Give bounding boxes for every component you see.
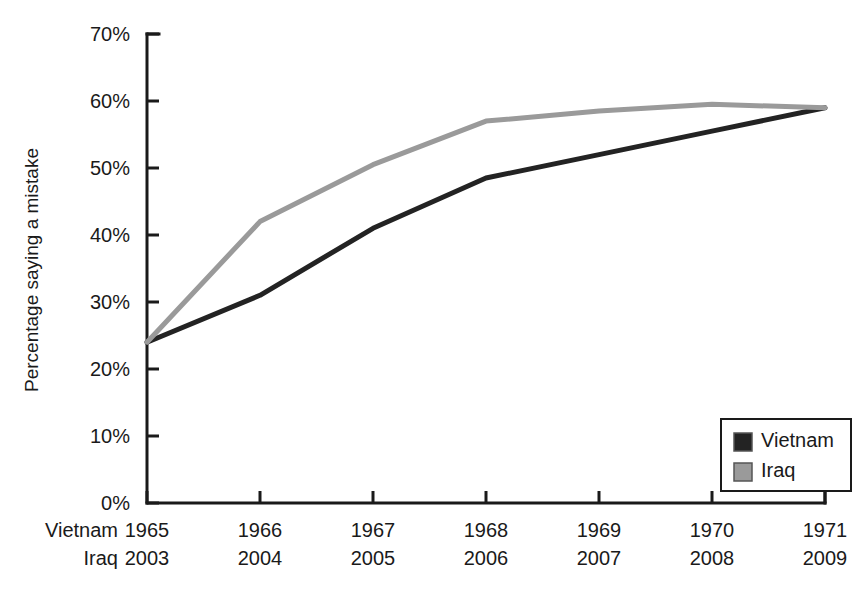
x-axis-tick-label: 2004 <box>238 547 283 569</box>
x-axis-tick-label: 2006 <box>464 547 509 569</box>
x-axis-tick-label: 1971 <box>803 519 848 541</box>
series-line-iraq <box>147 104 825 342</box>
x-axis-row-headers: VietnamIraq <box>45 519 118 569</box>
x-axis-row-header-vietnam: Vietnam <box>45 519 118 541</box>
x-axis-tick-label: 2005 <box>351 547 396 569</box>
y-axis-tick-label: 0% <box>101 492 130 514</box>
chart-legend[interactable]: VietnamIraq <box>721 419 851 491</box>
y-axis-tick-labels: 0%10%20%30%40%50%60%70% <box>90 23 130 514</box>
legend-label-vietnam: Vietnam <box>761 429 834 451</box>
y-axis-title: Percentage saying a mistake <box>21 148 42 392</box>
line-chart: Percentage saying a mistake 0%10%20%30%4… <box>0 0 862 601</box>
x-axis-tick-label: 1965 <box>125 519 170 541</box>
x-axis-tick-label: 1970 <box>690 519 735 541</box>
y-axis-tick-label: 50% <box>90 157 130 179</box>
y-axis-tick-label: 10% <box>90 425 130 447</box>
x-axis-tick-labels: 1965196619671968196919701971200320042005… <box>125 519 848 569</box>
x-axis-tick-label: 2009 <box>803 547 848 569</box>
chart-container: Percentage saying a mistake 0%10%20%30%4… <box>0 0 862 601</box>
legend-label-iraq: Iraq <box>761 459 795 481</box>
y-axis-tick-label: 60% <box>90 90 130 112</box>
y-axis-tick-label: 40% <box>90 224 130 246</box>
x-axis-tick-label: 2007 <box>577 547 622 569</box>
x-axis-tick-label: 2003 <box>125 547 170 569</box>
series-line-vietnam <box>147 108 825 343</box>
legend-swatch-vietnam <box>734 433 752 451</box>
y-axis-tick-label: 70% <box>90 23 130 45</box>
data-series-group <box>147 104 825 342</box>
y-axis-ticks <box>147 34 159 503</box>
x-axis-tick-label: 1968 <box>464 519 509 541</box>
x-axis-tick-label: 1969 <box>577 519 622 541</box>
x-axis-tick-label: 2008 <box>690 547 735 569</box>
legend-swatch-iraq <box>734 463 752 481</box>
x-axis-tick-label: 1967 <box>351 519 396 541</box>
y-axis-tick-label: 30% <box>90 291 130 313</box>
x-axis-row-header-iraq: Iraq <box>84 547 118 569</box>
y-axis-tick-label: 20% <box>90 358 130 380</box>
x-axis-ticks <box>147 491 825 503</box>
x-axis-tick-label: 1966 <box>238 519 283 541</box>
